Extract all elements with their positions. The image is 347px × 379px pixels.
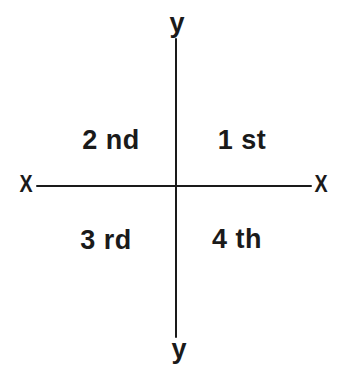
- quadrant-1-label: 1 st: [218, 127, 267, 154]
- quadrant-2-label: 2 nd: [82, 127, 140, 154]
- quadrant-3-label: 3 rd: [80, 227, 132, 254]
- x-axis-right-label: X: [314, 172, 327, 196]
- x-axis-left-label: X: [19, 172, 32, 196]
- y-axis-top-label: y: [169, 10, 184, 37]
- quadrant-4-label: 4 th: [212, 226, 262, 253]
- y-axis-bottom-label: y: [171, 336, 186, 363]
- quadrant-diagram: y y X X 1 st 2 nd 3 rd 4 th: [0, 0, 347, 379]
- x-axis-line: [36, 185, 312, 187]
- y-axis-line: [175, 38, 177, 338]
